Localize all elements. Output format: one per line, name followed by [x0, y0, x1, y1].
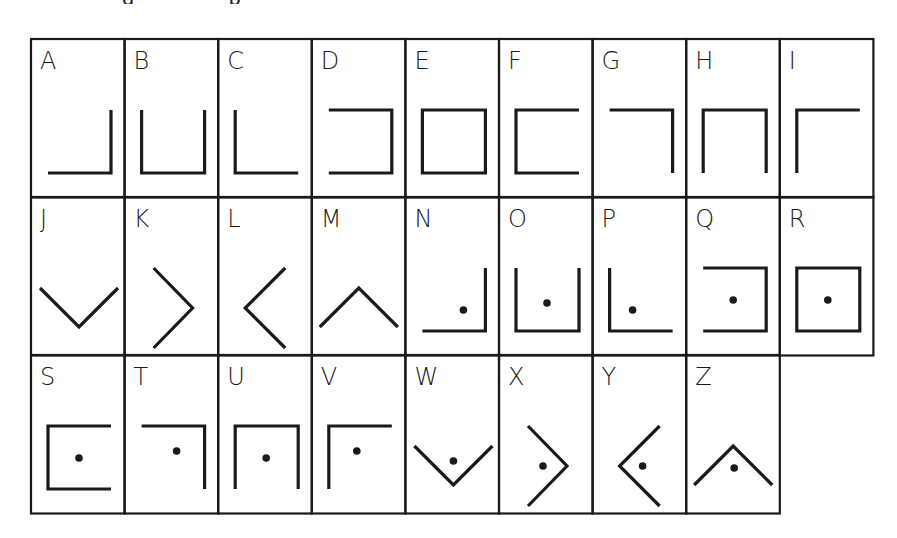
dot-icon [539, 462, 547, 470]
pigpen-symbol-corner-bottom-left-icon [235, 110, 298, 173]
pigpen-symbol-v-up-icon [320, 288, 398, 327]
cipher-cell-y: Y [593, 355, 687, 514]
pigpen-symbol-u-open-top-icon [142, 110, 205, 173]
cell-letter-label: L [227, 205, 240, 233]
cell-letter-label: G [602, 47, 621, 75]
pigpen-symbol-square-icon [422, 110, 485, 173]
dot-icon [450, 457, 458, 465]
cipher-cell-a: A [31, 39, 125, 198]
dot-icon [729, 296, 737, 304]
cell-letter-label: A [40, 47, 56, 75]
cipher-cell-d: D [312, 39, 406, 198]
cell-letter-label: Y [602, 363, 617, 391]
cell-letter-label: P [602, 205, 616, 233]
cell-letter-label: Z [695, 363, 711, 391]
cipher-cell-z: Z [686, 355, 780, 514]
cipher-cell-p: P [593, 197, 687, 356]
dot-icon [639, 462, 647, 470]
cipher-cell-f: F [499, 39, 593, 198]
cell-letter-label: U [227, 363, 245, 391]
cell-letter-label: D [321, 47, 339, 75]
cell-letter-label: O [508, 205, 527, 233]
cipher-cell-k: K [125, 197, 219, 356]
cipher-cell-n: N [405, 197, 499, 356]
cipher-cell-w: W [405, 355, 499, 514]
cell-letter-label: E [414, 47, 429, 75]
pigpen-symbol-v-down-icon [414, 446, 492, 485]
cipher-cell-h: H [686, 39, 780, 198]
pigpen-symbol-corner-bottom-right-icon [422, 268, 485, 331]
pigpen-symbol-corner-bottom-right-icon [48, 110, 111, 173]
cell-letter-label: M [321, 205, 342, 233]
cell-letter-label: R [789, 205, 806, 233]
cipher-cell-q: Q [686, 197, 780, 356]
dot-icon [460, 306, 468, 314]
pigpen-symbol-bracket-open-right-icon [516, 110, 579, 173]
cell-letter-label: I [789, 47, 796, 75]
cell-letter-label: K [134, 205, 150, 233]
cipher-cell-g: G [593, 39, 687, 198]
pigpen-symbol-v-down-icon [40, 288, 118, 327]
cipher-cell-e: E [405, 39, 499, 198]
cell-letter-label: J [40, 205, 47, 233]
pigpen-cipher-grid: ABCDEFGHIJKLMNOPQRSTUVWXYZ [0, 0, 897, 538]
pigpen-symbol-chevron-left-icon [245, 268, 285, 348]
dot-icon [730, 464, 738, 472]
cell-letter-label: B [134, 47, 150, 75]
dot-icon [543, 299, 551, 307]
cell-letter-label: T [134, 363, 149, 391]
pigpen-symbol-chevron-right-icon [154, 268, 193, 348]
pigpen-symbol-corner-top-right-icon [610, 110, 673, 173]
cipher-cell-u: U [218, 355, 312, 514]
pigpen-symbol-corner-top-left-icon [329, 426, 392, 489]
cell-letter-label: X [508, 363, 524, 391]
cipher-cell-t: T [125, 355, 219, 514]
pigpen-symbol-corner-top-left-icon [797, 110, 860, 173]
pigpen-symbol-bracket-open-left-icon [329, 110, 392, 173]
cipher-cell-b: B [125, 39, 219, 198]
dot-icon [629, 306, 637, 314]
pigpen-symbol-chevron-right-icon [528, 426, 567, 506]
cipher-cell-c: C [218, 39, 312, 198]
cipher-cell-m: M [312, 197, 406, 356]
dot-icon [262, 454, 270, 462]
cipher-cell-l: L [218, 197, 312, 356]
cipher-cell-v: V [312, 355, 406, 514]
pigpen-symbol-corner-top-right-icon [142, 426, 205, 489]
dot-icon [824, 296, 832, 304]
cipher-cell-x: X [499, 355, 593, 514]
cell-letter-label: F [508, 47, 522, 75]
cell-letter-label: S [40, 363, 55, 391]
cell-letter-label: W [414, 363, 438, 391]
dot-icon [173, 447, 181, 455]
cell-letter-label: H [695, 47, 713, 75]
cell-letter-label: Q [695, 205, 714, 233]
dot-icon [353, 447, 361, 455]
cipher-cell-o: O [499, 197, 593, 356]
cipher-cell-i: I [780, 39, 874, 198]
cell-letter-label: C [227, 47, 244, 75]
cell-letter-label: N [414, 205, 432, 233]
pigpen-symbol-corner-bottom-left-icon [610, 268, 673, 331]
pigpen-symbol-u-open-bottom-icon [703, 110, 766, 173]
dot-icon [75, 454, 83, 462]
cipher-cell-s: S [31, 355, 125, 514]
cipher-cell-r: R [780, 197, 874, 356]
cell-letter-label: V [321, 363, 337, 391]
cipher-cell-j: J [31, 197, 125, 356]
